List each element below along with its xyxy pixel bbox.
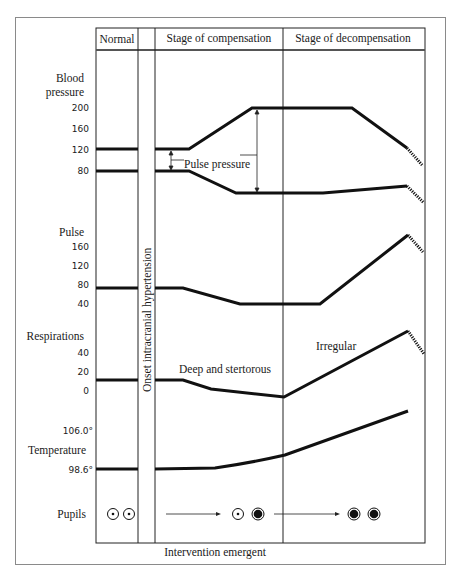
pulse-pressure-label: Pulse pressure bbox=[184, 158, 250, 171]
pupils-decompensation bbox=[348, 508, 380, 520]
header-compensation: Stage of compensation bbox=[167, 32, 272, 45]
respirations-dotted bbox=[408, 331, 424, 354]
irregular-label: Irregular bbox=[316, 340, 356, 353]
header-normal: Normal bbox=[99, 33, 134, 45]
bp-diastolic-line bbox=[96, 171, 407, 193]
bp-diastolic-dotted bbox=[407, 186, 424, 203]
resp-tick-20: 20 bbox=[78, 367, 90, 377]
pulse-pressure-arrows bbox=[169, 110, 259, 192]
pupils-normal bbox=[108, 509, 135, 520]
bp-label-line2: pressure bbox=[46, 86, 84, 99]
temp-tick-106: 106.0° bbox=[63, 426, 93, 436]
bp-systolic-dotted bbox=[407, 148, 423, 166]
resp-tick-0: 0 bbox=[83, 386, 89, 396]
pulse-tick-120: 120 bbox=[72, 261, 89, 271]
pulse-label: Pulse bbox=[59, 226, 84, 238]
pulse-dotted bbox=[408, 235, 423, 252]
icp-vital-signs-diagram: Normal Stage of compensation Stage of de… bbox=[0, 0, 461, 581]
deep-stertorous-label: Deep and stertorous bbox=[179, 363, 271, 376]
pupil-arrow-1 bbox=[166, 512, 221, 516]
bp-tick-160: 160 bbox=[72, 124, 89, 134]
temperature-label: Temperature bbox=[28, 444, 86, 457]
intervention-emergent-label: Intervention emergent bbox=[164, 546, 266, 559]
respirations-label: Respirations bbox=[27, 330, 85, 343]
bp-tick-120: 120 bbox=[72, 145, 89, 155]
pulse-tick-80: 80 bbox=[78, 280, 90, 290]
bp-systolic-line bbox=[96, 108, 407, 149]
pupil-arrow-2 bbox=[274, 512, 340, 516]
pulse-tick-160: 160 bbox=[72, 242, 89, 252]
temp-tick-98-6: 98.6° bbox=[68, 465, 93, 475]
bp-tick-200: 200 bbox=[72, 103, 89, 113]
pupils-compensation bbox=[233, 508, 265, 520]
onset-label: Onset intracranial hypertension bbox=[141, 247, 154, 392]
bp-tick-80: 80 bbox=[78, 166, 90, 176]
bp-label-line1: Blood bbox=[56, 72, 84, 84]
pupils-label: Pupils bbox=[57, 508, 86, 521]
temperature-line bbox=[96, 411, 408, 469]
pulse-tick-40: 40 bbox=[78, 299, 90, 309]
resp-tick-40: 40 bbox=[78, 348, 90, 358]
header-decompensation: Stage of decompensation bbox=[295, 32, 411, 45]
